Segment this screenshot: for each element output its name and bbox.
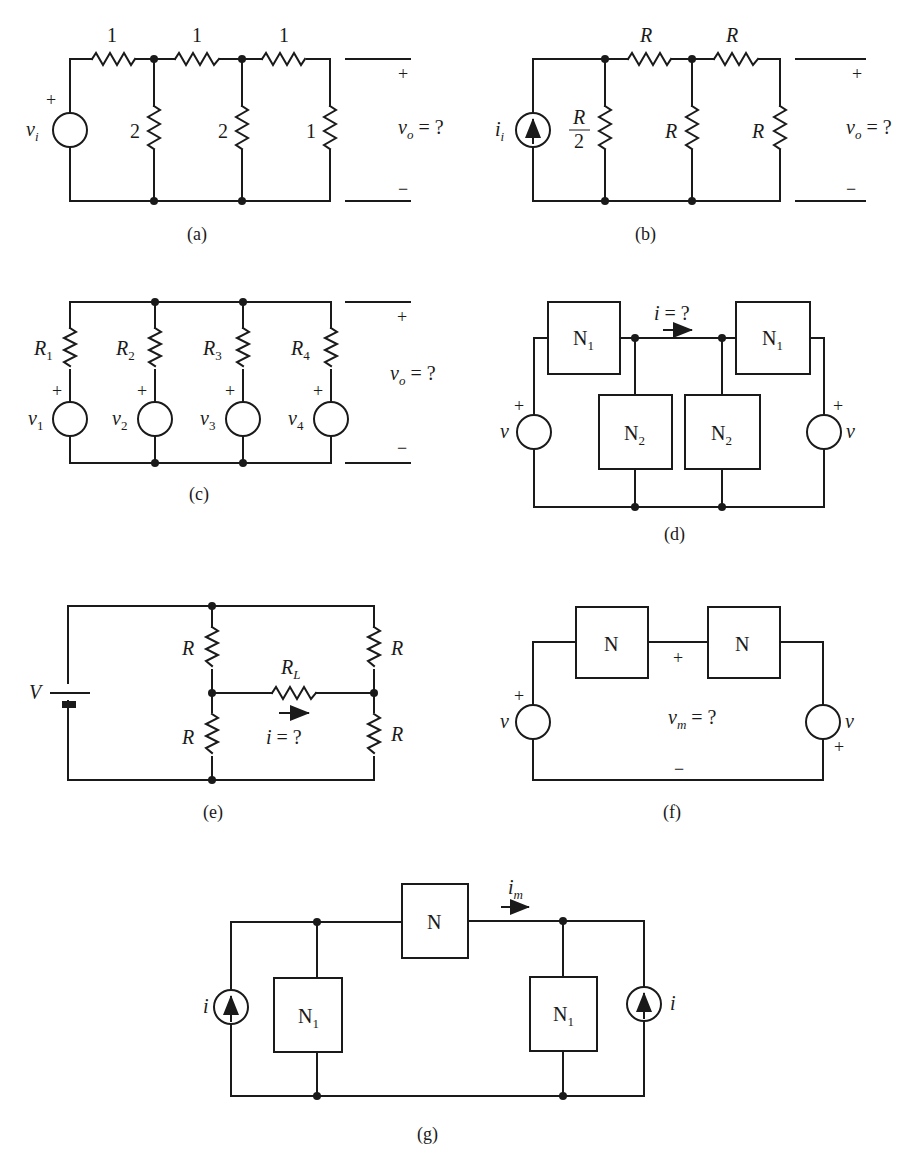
voltage-source-left xyxy=(517,415,551,449)
label-v-battery: V xyxy=(29,681,44,703)
label-n1: N1 xyxy=(573,327,594,353)
resistor-series-2 xyxy=(714,53,758,65)
voltage-source-right xyxy=(806,705,840,739)
output-minus: − xyxy=(398,179,408,199)
circuit-figure: 1 1 1 2 2 1 + vi + − vo = ? (a) R R R 2 … xyxy=(0,0,922,1166)
label-n: N xyxy=(427,911,441,933)
label-r-shunt-1: 2 xyxy=(130,120,140,142)
label-r: R xyxy=(181,637,194,659)
polarity-plus: + xyxy=(137,381,147,401)
label-v-right: v xyxy=(845,710,854,732)
voltage-source-left xyxy=(516,705,550,739)
label-r-series-1: R xyxy=(639,24,652,46)
label-r-half-num: R xyxy=(572,106,585,128)
label-vo: vo = ? xyxy=(846,116,892,142)
circuit-d: N1 N1 N2 N2 i = ? + + v v (d) xyxy=(500,302,855,545)
label-r1: R1 xyxy=(33,337,53,363)
polarity-plus: + xyxy=(514,396,524,416)
battery-short-plate xyxy=(62,701,76,708)
circuit-a: 1 1 1 2 2 1 + vi + − vo = ? (a) xyxy=(26,24,444,245)
circuit-c: R1 R2 R3 R4 + + + + v1 v2 v3 v4 + − vo =… xyxy=(28,298,436,505)
polarity-plus: + xyxy=(52,381,62,401)
caption-e: (e) xyxy=(203,802,223,823)
label-r-series-2: 1 xyxy=(192,24,202,46)
label-r-series-1: 1 xyxy=(107,24,117,46)
resistor-shunt-3 xyxy=(324,106,336,149)
label-n: N xyxy=(604,633,618,655)
resistor-series-1 xyxy=(628,53,671,65)
resistor-shunt-3 xyxy=(774,106,786,149)
output-minus: − xyxy=(846,179,856,199)
label-v-left: v xyxy=(500,420,509,442)
polarity-plus: + xyxy=(46,90,56,110)
voltage-source-vi xyxy=(53,113,87,147)
label-r-series-2: R xyxy=(725,24,738,46)
resistor-shunt-1 xyxy=(599,106,611,149)
resistor-load xyxy=(272,687,316,699)
label-n1: N1 xyxy=(298,1005,319,1031)
resistor-series-2 xyxy=(175,53,219,65)
caption-c: (c) xyxy=(189,484,209,505)
caption-f: (f) xyxy=(663,802,681,823)
vm-plus: + xyxy=(673,648,683,668)
resistor-shunt-2 xyxy=(236,106,248,149)
label-v2: v2 xyxy=(112,407,127,433)
output-plus: + xyxy=(397,307,407,327)
label-r: R xyxy=(390,637,403,659)
label-r4: R4 xyxy=(290,337,310,363)
circuit-f: N N + − + + v v vm = ? (f) xyxy=(500,607,854,823)
circuit-e: V R R R R RL i = ? (e) xyxy=(29,602,403,823)
caption-d: (d) xyxy=(664,524,685,545)
caption-g: (g) xyxy=(417,1124,438,1145)
resistor-shunt-2 xyxy=(686,106,698,149)
output-minus: − xyxy=(397,438,407,458)
label-v4: v4 xyxy=(288,407,304,433)
label-i-left: i xyxy=(203,995,209,1017)
output-plus: + xyxy=(398,64,408,84)
label-r-shunt-2: 2 xyxy=(218,120,228,142)
label-v-right: v xyxy=(846,420,855,442)
label-vi: vi xyxy=(26,118,39,144)
label-vo: vo = ? xyxy=(398,116,444,142)
label-r-half-den: 2 xyxy=(574,130,584,152)
output-plus: + xyxy=(852,64,862,84)
label-n1: N1 xyxy=(553,1003,574,1029)
polarity-plus: + xyxy=(225,381,235,401)
label-ii: ii xyxy=(495,118,505,144)
label-r-shunt-3: R xyxy=(751,120,764,142)
label-n2: N2 xyxy=(624,422,645,448)
resistor-series-1 xyxy=(92,53,135,65)
resistor-shunt-1 xyxy=(148,106,160,149)
label-rl: RL xyxy=(280,656,300,682)
caption-b: (b) xyxy=(635,224,656,245)
label-n2: N2 xyxy=(711,422,732,448)
resistor-series-3 xyxy=(262,53,305,65)
caption-a: (a) xyxy=(187,224,207,245)
voltage-source-right xyxy=(807,415,841,449)
vm-minus: − xyxy=(674,759,684,779)
polarity-plus: + xyxy=(833,396,843,416)
label-r-shunt-3: 1 xyxy=(306,120,316,142)
label-i-right: i xyxy=(670,992,676,1014)
circuit-g: N N1 N1 im i i (g) xyxy=(203,876,676,1145)
label-v3: v3 xyxy=(200,407,215,433)
label-v-left: v xyxy=(500,710,509,732)
label-vm: vm = ? xyxy=(668,706,717,732)
label-v1: v1 xyxy=(28,407,43,433)
label-n1: N1 xyxy=(762,327,783,353)
label-r3: R3 xyxy=(202,337,222,363)
label-r-shunt-2: R xyxy=(664,120,677,142)
label-im: im xyxy=(508,876,523,902)
polarity-plus: + xyxy=(514,686,524,706)
label-r: R xyxy=(390,723,403,745)
polarity-plus: + xyxy=(313,381,323,401)
label-i-unknown: i = ? xyxy=(654,302,690,324)
label-r: R xyxy=(181,726,194,748)
label-r-series-3: 1 xyxy=(279,24,289,46)
circuit-b: R R R 2 R R ii + − vo = ? (b) xyxy=(495,24,892,245)
label-vo: vo = ? xyxy=(390,362,436,388)
label-r2: R2 xyxy=(115,337,135,363)
label-n: N xyxy=(735,633,749,655)
polarity-plus: + xyxy=(834,737,844,757)
label-i-unknown: i = ? xyxy=(266,726,302,748)
